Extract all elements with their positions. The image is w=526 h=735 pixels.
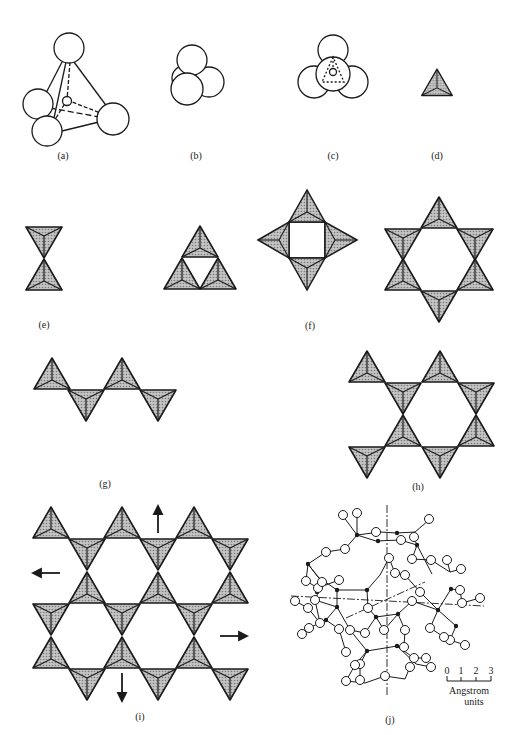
label-d: (d) [431, 150, 443, 162]
panel-f-ring-3 [164, 226, 236, 289]
panel-h [349, 351, 494, 478]
scale-bar [447, 676, 491, 681]
scale-tick-1: 1 [459, 665, 464, 676]
label-i: (i) [135, 711, 144, 723]
label-a: (a) [57, 150, 68, 162]
scale-tick-2: 2 [474, 665, 479, 676]
label-h: (h) [412, 481, 424, 493]
panel-e [26, 227, 62, 290]
panel-i [33, 507, 248, 700]
arrow-right-icon [220, 632, 247, 640]
label-j: (j) [385, 714, 394, 726]
arrow-left-icon [33, 569, 60, 577]
panel-a [23, 33, 129, 146]
label-f: (f) [305, 320, 315, 332]
panel-f-ring-4 [258, 190, 357, 290]
panel-b [171, 45, 224, 105]
scale-tick-0: 0 [445, 665, 450, 676]
panel-g [34, 358, 176, 421]
label-e: (e) [38, 319, 49, 331]
silicate-structures-figure: (a) (b) (c) (d) (e) [0, 0, 526, 735]
arrow-up-icon [154, 506, 162, 533]
scale-unit-line2: units [464, 696, 484, 707]
label-b: (b) [190, 150, 202, 162]
label-c: (c) [327, 150, 338, 162]
scale-tick-3: 3 [489, 665, 494, 676]
panel-c [298, 35, 368, 98]
panel-d [422, 69, 453, 95]
panel-j [291, 505, 485, 695]
scale-unit-line1: Angstrom [449, 685, 489, 696]
panel-f-ring-6 [385, 197, 493, 322]
arrow-down-icon [118, 673, 126, 701]
label-g: (g) [99, 478, 111, 490]
